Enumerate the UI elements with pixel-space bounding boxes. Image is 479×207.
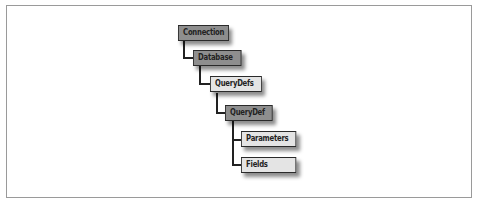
node-parameters: Parameters (241, 131, 296, 147)
diagram-frame (6, 5, 472, 198)
node-label: Parameters (246, 133, 288, 143)
node-label: QueryDefs (215, 78, 253, 88)
connector-database-querydefs-h (199, 83, 210, 85)
node-database: Database (193, 50, 241, 66)
node-fields: Fields (241, 157, 296, 173)
connector-connection-database (183, 41, 185, 58)
node-label: Connection (183, 27, 224, 37)
connector-querydefs-querydef (216, 93, 218, 113)
connector-querydefs-querydef-h (216, 112, 225, 114)
node-querydefs: QueryDefs (210, 76, 262, 92)
connector-querydef-children (232, 121, 234, 165)
node-connection: Connection (178, 25, 229, 41)
connector-connection-database-h (183, 57, 193, 59)
node-label: Fields (246, 159, 268, 169)
connector-database-querydefs (199, 66, 201, 84)
node-label: QueryDef (230, 107, 265, 117)
connector-querydef-fields-h (232, 164, 241, 166)
node-querydef: QueryDef (225, 105, 273, 121)
node-label: Database (198, 52, 233, 62)
connector-querydef-parameters-h (232, 139, 241, 141)
